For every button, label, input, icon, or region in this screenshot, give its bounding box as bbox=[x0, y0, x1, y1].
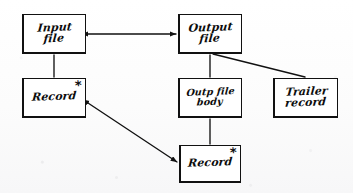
node-label-output-file: Output file bbox=[187, 21, 233, 46]
node-trailer-record[interactable]: Trailer record bbox=[273, 78, 338, 118]
node-output-record[interactable]: Record* bbox=[179, 145, 241, 183]
node-input-file[interactable]: Input file bbox=[22, 14, 86, 54]
repeating-marker-icon-output-record: * bbox=[230, 146, 238, 160]
node-output-file-body[interactable]: Outp file body bbox=[178, 78, 242, 118]
node-output-file[interactable]: Output file bbox=[178, 14, 242, 54]
node-label-input-record: Record bbox=[32, 91, 77, 105]
node-label-trailer-record: Trailer record bbox=[284, 85, 328, 110]
edge-input-record-to-output-record bbox=[88, 103, 177, 162]
node-label-input-file: Input file bbox=[36, 21, 73, 46]
node-label-output-record: Record bbox=[188, 157, 233, 171]
edge-output-file-to-trailer-record bbox=[213, 54, 305, 77]
diagram-canvas: Input fileOutput fileRecord*Outp file bo… bbox=[0, 0, 353, 193]
node-label-output-file-body: Outp file body bbox=[185, 86, 235, 109]
repeating-marker-icon-input-record: * bbox=[75, 79, 83, 93]
node-input-record[interactable]: Record* bbox=[22, 78, 86, 118]
